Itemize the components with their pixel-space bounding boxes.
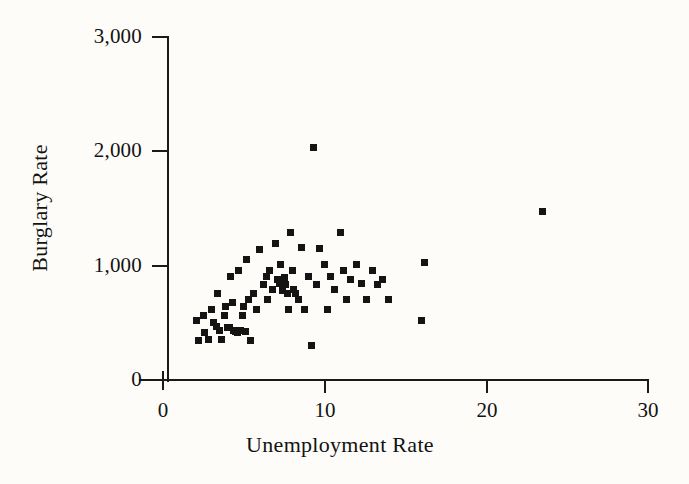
data-point xyxy=(305,273,312,280)
data-point xyxy=(337,229,344,236)
data-point xyxy=(363,296,370,303)
data-point xyxy=(282,281,289,288)
data-point xyxy=(256,246,263,253)
data-point xyxy=(340,267,347,274)
data-point xyxy=(260,281,267,288)
data-point xyxy=(353,261,360,268)
data-point xyxy=(277,261,284,268)
data-point xyxy=(247,337,254,344)
data-point xyxy=(253,306,260,313)
data-point xyxy=(221,312,228,319)
data-point xyxy=(289,267,296,274)
data-point xyxy=(235,267,242,274)
data-point xyxy=(298,244,305,251)
data-point xyxy=(264,296,271,303)
data-point xyxy=(281,274,288,281)
data-point xyxy=(240,303,247,310)
data-point xyxy=(216,327,223,334)
data-point xyxy=(331,286,338,293)
data-point xyxy=(201,329,208,336)
data-point xyxy=(214,290,221,297)
data-point xyxy=(308,342,315,349)
data-point xyxy=(327,273,334,280)
data-point xyxy=(218,336,225,343)
data-point xyxy=(266,267,273,274)
data-point xyxy=(358,280,365,287)
data-point xyxy=(310,144,317,151)
data-point xyxy=(313,281,320,288)
data-point xyxy=(347,276,354,283)
data-point xyxy=(316,245,323,252)
data-point xyxy=(245,296,252,303)
data-point xyxy=(321,261,328,268)
data-point xyxy=(285,306,292,313)
data-point xyxy=(205,336,212,343)
data-point xyxy=(385,296,392,303)
data-point xyxy=(229,299,236,306)
data-point xyxy=(250,290,257,297)
data-point xyxy=(295,296,302,303)
data-point xyxy=(324,306,331,313)
data-point xyxy=(263,273,270,280)
data-point xyxy=(369,267,376,274)
data-point xyxy=(418,317,425,324)
data-point xyxy=(227,273,234,280)
data-point xyxy=(539,208,546,215)
data-point xyxy=(379,276,386,283)
data-point xyxy=(343,296,350,303)
data-point xyxy=(200,312,207,319)
data-point xyxy=(243,256,250,263)
scatter-plot-figure: 3,000 2,000 1,000 0 0 10 20 30 Unemploym… xyxy=(0,0,689,484)
data-point xyxy=(195,337,202,344)
data-point xyxy=(269,286,276,293)
data-point xyxy=(421,259,428,266)
data-point xyxy=(242,328,249,335)
data-point xyxy=(301,306,308,313)
data-point xyxy=(208,306,215,313)
plot-area xyxy=(0,0,689,484)
data-point xyxy=(239,312,246,319)
data-point xyxy=(287,229,294,236)
data-point xyxy=(272,240,279,247)
